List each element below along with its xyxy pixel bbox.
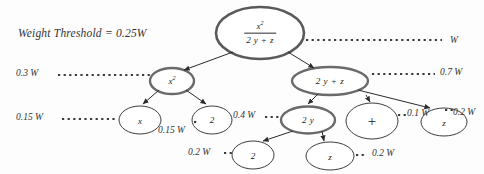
weight-label-two-right: 0.4 W [233,111,255,121]
weight-label-right-level1: 0.7 W [440,68,462,78]
weight-label-z-bottom-right: 0.2 W [372,149,394,159]
weight-label-root: W [450,36,458,46]
edge-root-to-x2 [184,52,233,70]
node-root-numerator: x2 [244,21,276,31]
node-plus-label: + [368,114,376,129]
figure-title: Weight Threshold = 0.25W [18,28,147,40]
edge-x2-to-two-a [186,90,206,104]
node-z-right-label: z [442,119,446,128]
weight-label-z-right: 0.2 W [453,108,475,118]
edge-2yz-to-two-y [308,94,318,104]
edge-two-y-to-two-b [263,131,293,141]
expression-tree-figure: Weight Threshold = 0.25W x2 2 y + z x2 2… [0,0,484,174]
edge-2yz-to-plus [366,95,370,102]
node-z-bottom-label: z [328,153,332,162]
node-two-a-label: 2 [210,116,215,125]
weight-label-plus-right: 0.1 W [407,109,429,119]
weight-label-x-right: 0.15 W [158,126,185,136]
node-two-y-label: 2 y [302,116,314,125]
fraction-bar [244,33,276,34]
node-x-label: x [138,117,142,126]
edge-root-to-2yz [288,52,314,68]
node-two-b-label: 2 [251,152,256,161]
node-root-denominator: 2 y + z [244,35,276,45]
node-x2-label: x2 [168,77,175,86]
weight-label-two-b-left: 0.2 W [188,148,210,158]
edge-x2-to-x [143,90,159,104]
node-2yz-label: 2 y + z [316,77,344,86]
weight-label-left-level1: 0.3 W [16,69,38,79]
weight-label-left-level2: 0.15 W [16,113,43,123]
node-root-label: x2 2 y + z [244,21,276,46]
